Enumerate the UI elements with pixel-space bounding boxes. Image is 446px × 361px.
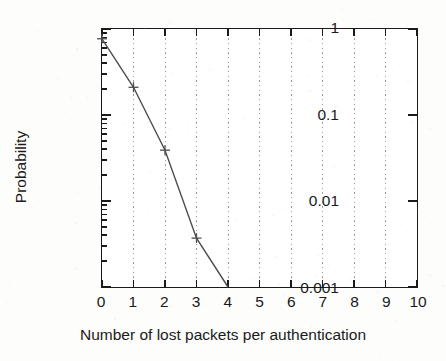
plot-area [101,28,418,288]
y-tick-label: 1 [330,19,346,37]
x-tick-label: 2 [160,293,169,311]
data-series [102,29,417,287]
x-tick-label: 1 [128,293,137,311]
y-tick-label: 0.1 [317,106,346,124]
x-tick-label: 6 [287,293,296,311]
y-tick-label: 0.001 [300,279,346,297]
x-axis-title: Number of lost packets per authenticatio… [0,326,446,344]
y-axis-title: Probability [12,87,30,247]
x-tick-label: 9 [382,293,391,311]
x-tick-label: 5 [255,293,264,311]
chart-figure: Probability Number of lost packets per a… [0,0,446,361]
x-tick-label: 0 [97,293,106,311]
x-tick-label: 8 [350,293,359,311]
x-tick-label: 4 [223,293,232,311]
x-tick-label: 10 [409,293,426,311]
x-tick-label: 3 [192,293,201,311]
y-tick-label: 0.01 [309,192,346,210]
